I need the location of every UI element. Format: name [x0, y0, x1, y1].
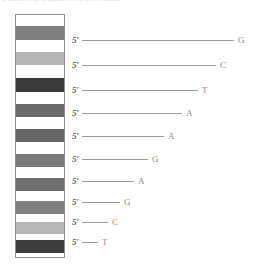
fragment-row: 5′A	[72, 106, 193, 120]
base-letter: G	[148, 155, 159, 164]
fragment-row: 5′T	[72, 235, 108, 249]
base-letter: T	[198, 86, 208, 95]
strand-line	[82, 222, 108, 223]
five-prime-label: 5′	[72, 36, 82, 45]
base-letter: T	[98, 238, 108, 247]
fragment-row: 5′C	[72, 215, 118, 229]
strand-line	[82, 202, 120, 203]
strand-line	[82, 65, 216, 66]
strand-line	[82, 90, 198, 91]
five-prime-label: 5′	[72, 238, 82, 247]
base-letter: C	[216, 61, 226, 70]
five-prime-label: 5′	[72, 177, 82, 186]
base-letter: A	[164, 132, 175, 141]
five-prime-label: 5′	[72, 155, 82, 164]
base-letter: G	[120, 198, 131, 207]
five-prime-label: 5′	[72, 218, 82, 227]
strand-line	[82, 136, 164, 137]
five-prime-label: 5′	[72, 198, 82, 207]
strand-line	[82, 181, 134, 182]
five-prime-label: 5′	[72, 86, 82, 95]
base-letter: A	[134, 177, 145, 186]
five-prime-label: 5′	[72, 132, 82, 141]
five-prime-label: 5′	[72, 109, 82, 118]
fragment-row: 5′A	[72, 129, 175, 143]
fragment-row: 5′G	[72, 195, 131, 209]
fragment-row: 5′T	[72, 83, 208, 97]
base-letter: A	[182, 109, 193, 118]
five-prime-label: 5′	[72, 61, 82, 70]
fragment-row: 5′C	[72, 58, 226, 72]
fragment-row-list: 5′G5′C5′T5′A5′A5′G5′A5′G5′C5′T	[0, 0, 253, 269]
base-letter: C	[108, 218, 118, 227]
strand-line	[82, 159, 148, 160]
fragment-row: 5′G	[72, 152, 159, 166]
strand-line	[82, 113, 182, 114]
strand-line	[82, 242, 98, 243]
strand-line	[82, 40, 234, 41]
base-letter: G	[234, 36, 245, 45]
sequencing-gel-figure: a nucleotide sequence of a DNA strand 5′…	[0, 0, 253, 269]
fragment-row: 5′A	[72, 174, 145, 188]
fragment-row: 5′G	[72, 33, 245, 47]
